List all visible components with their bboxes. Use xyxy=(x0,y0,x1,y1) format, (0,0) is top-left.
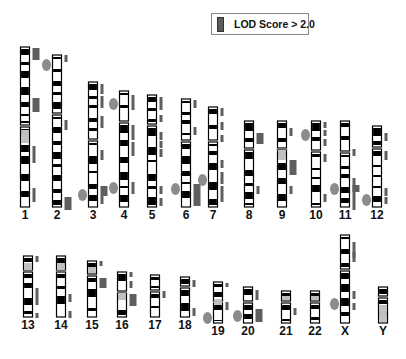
chromosome-X: X xyxy=(330,235,356,338)
lod-bar xyxy=(132,182,135,194)
lod-bar xyxy=(226,283,229,287)
lod-bar xyxy=(353,303,356,310)
chromosome-4: 4 xyxy=(109,91,135,222)
lod-bar xyxy=(69,294,72,302)
lod-bar xyxy=(101,186,108,196)
lod-bar xyxy=(257,186,260,194)
chromosome-18: 18 xyxy=(178,277,195,332)
chromosome-label: 18 xyxy=(178,318,192,332)
lod-bar xyxy=(101,150,104,160)
lod-bar xyxy=(160,149,163,157)
chromosome-label: 17 xyxy=(148,318,162,332)
locus-marker-icon xyxy=(78,189,87,201)
lod-bar xyxy=(65,55,68,62)
lod-bar xyxy=(221,172,224,184)
lod-bar xyxy=(101,96,104,108)
lod-bar xyxy=(163,291,166,298)
lod-bar xyxy=(132,95,135,110)
lod-bar xyxy=(385,151,388,160)
chromosome-label: 13 xyxy=(21,318,35,332)
chromosome-label: Y xyxy=(379,324,387,338)
lod-bar xyxy=(353,178,356,210)
lod-bar xyxy=(130,281,133,288)
lod-bar xyxy=(221,160,224,168)
lod-bar xyxy=(101,116,104,128)
karyotype-diagram: LOD Score > 2.0 123456789101112131415161… xyxy=(0,0,406,359)
chromosome-13: 13 xyxy=(21,256,38,332)
chromosome-5: 5 xyxy=(148,95,163,222)
lod-bar xyxy=(160,97,163,110)
lod-bar xyxy=(160,115,163,122)
lod-bar xyxy=(194,127,197,135)
chromosome-label: 4 xyxy=(121,208,128,222)
lod-bar xyxy=(353,252,356,262)
lod-bar xyxy=(221,186,224,202)
lod-bar xyxy=(385,133,388,141)
lod-bar xyxy=(353,149,356,156)
chromosome-16: 16 xyxy=(115,272,136,332)
lod-bar xyxy=(130,272,133,277)
chromosome-label: 11 xyxy=(339,208,352,222)
chromosome-label: 1 xyxy=(22,208,29,222)
chromosome-label: 6 xyxy=(183,208,190,222)
lod-bar xyxy=(221,108,224,116)
chromosome-label: 8 xyxy=(246,208,253,222)
lod-bar xyxy=(65,120,68,130)
locus-marker-icon xyxy=(330,183,339,195)
locus-marker-icon xyxy=(233,310,242,322)
chromosome-21: 21 xyxy=(279,291,296,338)
lod-bar xyxy=(100,261,103,266)
lod-bar xyxy=(33,48,40,60)
locus-marker-icon xyxy=(203,312,212,324)
chromosome-label: 2 xyxy=(54,208,61,222)
chromosome-label: 15 xyxy=(85,318,99,332)
chromosome-19: 19 xyxy=(203,282,229,338)
lod-bar xyxy=(324,122,327,128)
lod-bar xyxy=(385,197,388,204)
lod-bar xyxy=(324,130,327,136)
chromosome-20: 20 xyxy=(233,287,263,338)
lod-bar xyxy=(132,125,135,140)
lod-bar xyxy=(130,294,137,306)
lod-bar xyxy=(101,84,104,94)
lod-bar xyxy=(160,198,163,206)
locus-marker-icon xyxy=(330,298,339,310)
lod-bar xyxy=(324,154,327,162)
lod-bar xyxy=(65,197,72,210)
chromosome-label: 16 xyxy=(115,318,129,332)
lod-bar xyxy=(294,308,297,315)
lod-bar xyxy=(290,186,293,194)
chromosome-9: 9 xyxy=(278,121,297,222)
lod-bar xyxy=(33,188,36,202)
lod-bar xyxy=(193,280,196,287)
chromosome-label: 3 xyxy=(90,208,97,222)
lod-bar xyxy=(160,186,163,194)
locus-marker-icon xyxy=(301,129,310,141)
chromosome-label: X xyxy=(341,324,349,338)
lod-bar xyxy=(36,256,39,262)
chromosome-2: 2 xyxy=(42,55,72,222)
chromosome-10: 10 xyxy=(301,121,327,222)
chromosome-17: 17 xyxy=(148,275,165,332)
chromosome-14: 14 xyxy=(54,256,71,332)
locus-marker-icon xyxy=(362,194,371,206)
locus-marker-icon xyxy=(198,174,207,186)
chromosome-label: 20 xyxy=(241,324,255,338)
chromosome-label: 19 xyxy=(211,324,225,338)
lod-bar xyxy=(257,133,264,144)
lod-bar xyxy=(36,288,39,305)
chromosome-11: 11 xyxy=(330,121,360,222)
lod-bar xyxy=(385,188,388,196)
lod-bar xyxy=(290,128,293,136)
lod-bar xyxy=(221,122,224,130)
lod-bar xyxy=(33,98,40,112)
chromosome-label: 7 xyxy=(210,208,217,222)
lod-bar xyxy=(194,184,201,206)
lod-bar xyxy=(324,139,327,146)
lod-bar xyxy=(226,302,229,310)
lod-bar xyxy=(221,135,224,142)
ideogram-canvas: 12345678910111213141516171819202122XY xyxy=(0,0,406,359)
lod-bar xyxy=(353,291,356,299)
lod-bar xyxy=(69,311,72,318)
chromosome-7: 7 xyxy=(198,107,224,222)
